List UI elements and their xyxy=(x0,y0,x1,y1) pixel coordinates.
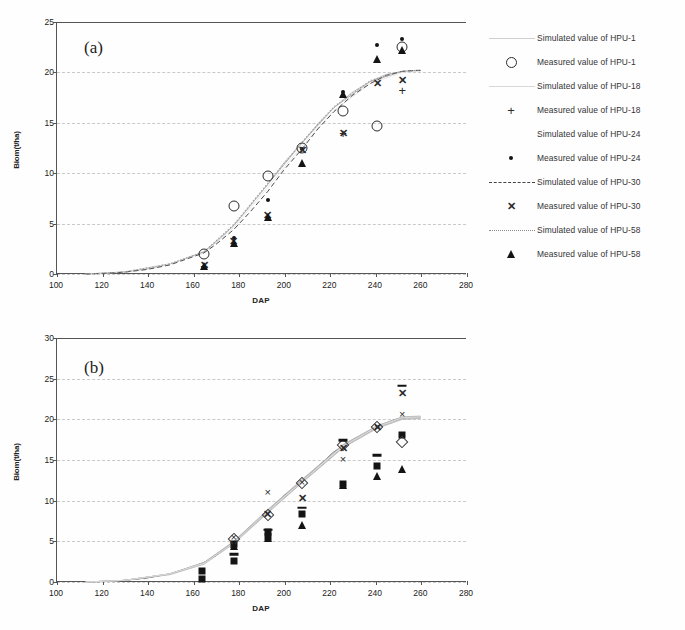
legend-row[interactable]: Measured value of HPU-58 xyxy=(485,242,685,266)
data-point: ✕ xyxy=(337,127,349,138)
data-point xyxy=(339,90,347,98)
legend-marker-swatch xyxy=(509,156,513,160)
y-tick-label: 20 xyxy=(32,68,54,77)
legend-label: Simulated value of HPU-30 xyxy=(537,177,641,187)
y-tick-label: 5 xyxy=(32,219,54,228)
legend-row[interactable]: Simulated value of HPU-24 xyxy=(485,122,685,146)
legend-key xyxy=(485,31,537,45)
legend-row[interactable]: Measured value of HPU-24 xyxy=(485,146,685,170)
y-tick-label: 15 xyxy=(32,456,54,465)
x-axis-title-a: DAP xyxy=(56,296,466,305)
panel-b: Biom(t/ha) 302520151050 ××××××✕✕✕✕✕✕ (b)… xyxy=(0,318,685,630)
data-point xyxy=(398,46,406,54)
x-tick-label: 100 xyxy=(49,280,63,290)
simulated-line xyxy=(86,418,421,582)
simulated-line xyxy=(86,417,421,582)
x-tick-label: 140 xyxy=(140,280,154,290)
data-point xyxy=(264,534,272,542)
legend-row[interactable]: Simulated value of HPU-18 xyxy=(485,74,685,98)
data-point: ✕ xyxy=(396,75,408,86)
legend-line-swatch xyxy=(489,86,535,87)
legend-key: ✕ xyxy=(485,199,537,213)
data-point xyxy=(298,159,306,167)
x-tick-label: 280 xyxy=(459,280,473,290)
legend-marker-swatch xyxy=(506,57,517,68)
data-point: ✕ xyxy=(296,493,308,504)
gridline xyxy=(57,274,466,275)
legend-row[interactable]: Simulated value of HPU-1 xyxy=(485,26,685,50)
data-point xyxy=(198,575,205,582)
plot-b: Biom(t/ha) 302520151050 ××××××✕✕✕✕✕✕ (b)… xyxy=(12,322,482,630)
y-tick-label: 25 xyxy=(32,374,54,383)
legend-line-swatch xyxy=(489,230,535,231)
simulated-line xyxy=(86,71,421,274)
simulated-line xyxy=(86,70,421,274)
y-tick-label: 10 xyxy=(32,169,54,178)
data-point xyxy=(298,507,307,510)
x-tick-label: 100 xyxy=(49,588,63,598)
data-point xyxy=(373,454,382,457)
data-point xyxy=(398,385,407,388)
legend-row[interactable]: Measured value of HPU-1 xyxy=(485,50,685,74)
x-tick-mark xyxy=(467,581,468,585)
gridline xyxy=(57,582,466,583)
data-point: ✕ xyxy=(371,422,383,433)
legend-key xyxy=(485,151,537,165)
y-tick-labels-a: 2520151050 xyxy=(30,8,54,318)
data-point xyxy=(200,262,208,270)
x-tick-label: 120 xyxy=(94,588,108,598)
x-tick-label: 160 xyxy=(186,588,200,598)
legend-label: Simulated value of HPU-24 xyxy=(537,129,641,139)
x-tick-label: 180 xyxy=(231,588,245,598)
y-tick-label: 25 xyxy=(32,18,54,27)
legend-line-swatch xyxy=(489,38,535,39)
plot-a: Biom(t/ha) 2520151050 ++++✕✕✕✕✕✕✕ (a) 10… xyxy=(12,8,482,318)
x-tick-label: 260 xyxy=(413,588,427,598)
y-tick-label: 0 xyxy=(32,578,54,587)
x-axis-title-b: DAP xyxy=(56,604,466,613)
data-point: × xyxy=(396,408,408,419)
x-tick-label: 240 xyxy=(368,588,382,598)
legend-key xyxy=(485,223,537,237)
y-tick-label: 15 xyxy=(32,119,54,128)
legend-label: Simulated value of HPU-58 xyxy=(537,225,641,235)
data-point xyxy=(229,553,238,556)
legend-marker-swatch xyxy=(507,250,515,258)
simulated-line xyxy=(86,70,421,274)
legend-row[interactable]: ✕Measured value of HPU-30 xyxy=(485,194,685,218)
legend-label: Simulated value of HPU-1 xyxy=(537,33,636,43)
legend-row[interactable]: Simulated value of HPU-30 xyxy=(485,170,685,194)
y-axis-title-b: Biom(t/ha) xyxy=(12,443,21,481)
x-tick-label: 200 xyxy=(277,588,291,598)
legend-a: Simulated value of HPU-1Measured value o… xyxy=(485,26,685,266)
biomass-figure: Biom(t/ha) 2520151050 ++++✕✕✕✕✕✕✕ (a) 10… xyxy=(0,0,685,630)
legend-key xyxy=(485,55,537,69)
panel-label-a: (a) xyxy=(84,38,103,58)
data-point xyxy=(230,557,237,564)
data-point xyxy=(264,213,272,221)
simulated-curves xyxy=(56,338,466,582)
data-point xyxy=(230,239,238,247)
data-point xyxy=(263,529,272,532)
data-point xyxy=(339,481,347,489)
data-point xyxy=(230,542,238,550)
simulated-line xyxy=(86,419,421,582)
data-point: ✕ xyxy=(337,442,349,453)
data-point xyxy=(298,521,306,529)
data-point xyxy=(374,462,381,469)
data-point xyxy=(339,439,348,442)
data-point xyxy=(373,472,381,480)
legend-key: + xyxy=(485,103,537,117)
legend-key xyxy=(485,79,537,93)
legend-row[interactable]: +Measured value of HPU-18 xyxy=(485,98,685,122)
legend-row[interactable]: Simulated value of HPU-58 xyxy=(485,218,685,242)
legend-marker-swatch: ✕ xyxy=(505,201,517,212)
x-tick-label: 120 xyxy=(94,280,108,290)
simulated-line xyxy=(86,70,421,274)
simulated-curves xyxy=(56,22,466,274)
x-tick-label: 140 xyxy=(140,588,154,598)
plot-area-b: ××××××✕✕✕✕✕✕ xyxy=(56,338,466,582)
simulated-line xyxy=(86,70,421,274)
panel-label-b: (b) xyxy=(84,358,104,378)
x-tick-label: 200 xyxy=(277,280,291,290)
